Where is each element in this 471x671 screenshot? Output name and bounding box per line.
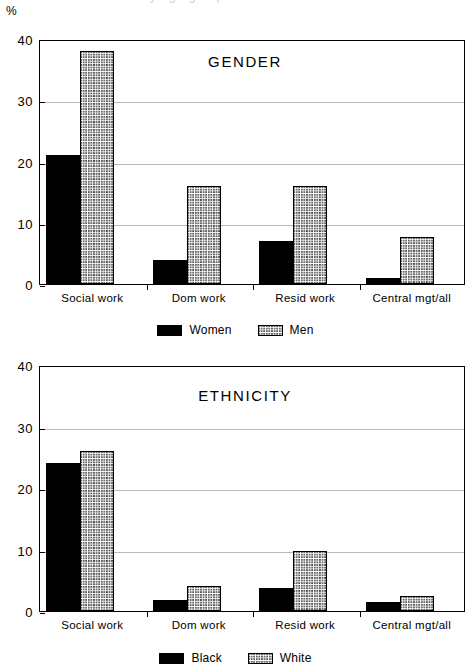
x-axis-category-label: Central mgt/all	[359, 620, 466, 632]
legend-swatch-white-icon	[248, 653, 273, 664]
figure-two-bar-charts: y age group % GENDER 010203040Social wor…	[0, 0, 471, 671]
x-axis-category-label: Resid work	[252, 620, 359, 632]
legend-item-black: Black	[159, 652, 221, 664]
x-tick-mark	[147, 612, 148, 617]
x-axis-category-label: Social work	[39, 620, 146, 632]
y-axis-tick-label: 0	[3, 606, 33, 619]
legend-swatch-black-icon	[159, 653, 184, 664]
bar-white-central-mgt-all	[400, 596, 434, 611]
legend-item-white: White	[248, 652, 312, 664]
legend-label-black: Black	[191, 652, 221, 664]
y-axis-tick-label: 30	[3, 422, 33, 435]
y-axis-tick-label: 40	[3, 360, 33, 373]
gridline	[40, 429, 464, 430]
y-axis-tick-label: 10	[3, 545, 33, 558]
y-tick-mark	[40, 429, 45, 430]
y-tick-mark	[40, 552, 45, 553]
bar-white-resid-work	[293, 551, 327, 611]
legend-ethnicity: Black White	[0, 650, 471, 666]
bar-black-dom-work	[153, 600, 187, 611]
bar-white-dom-work	[187, 586, 221, 611]
bar-black-social-work	[46, 463, 80, 611]
bar-white-social-work	[80, 451, 114, 611]
x-tick-mark	[253, 612, 254, 617]
y-axis-tick-label: 20	[3, 483, 33, 496]
bar-black-central-mgt-all	[366, 602, 400, 611]
chart-ethnicity: ETHNICITY 010203040Social workDom workRe…	[0, 0, 471, 671]
x-tick-mark	[360, 612, 361, 617]
x-axis-category-label: Dom work	[146, 620, 253, 632]
y-tick-mark	[40, 490, 45, 491]
bar-black-resid-work	[259, 588, 293, 611]
legend-label-white: White	[280, 652, 312, 664]
y-tick-mark	[40, 613, 45, 614]
chart-title-ethnicity: ETHNICITY	[155, 387, 335, 404]
